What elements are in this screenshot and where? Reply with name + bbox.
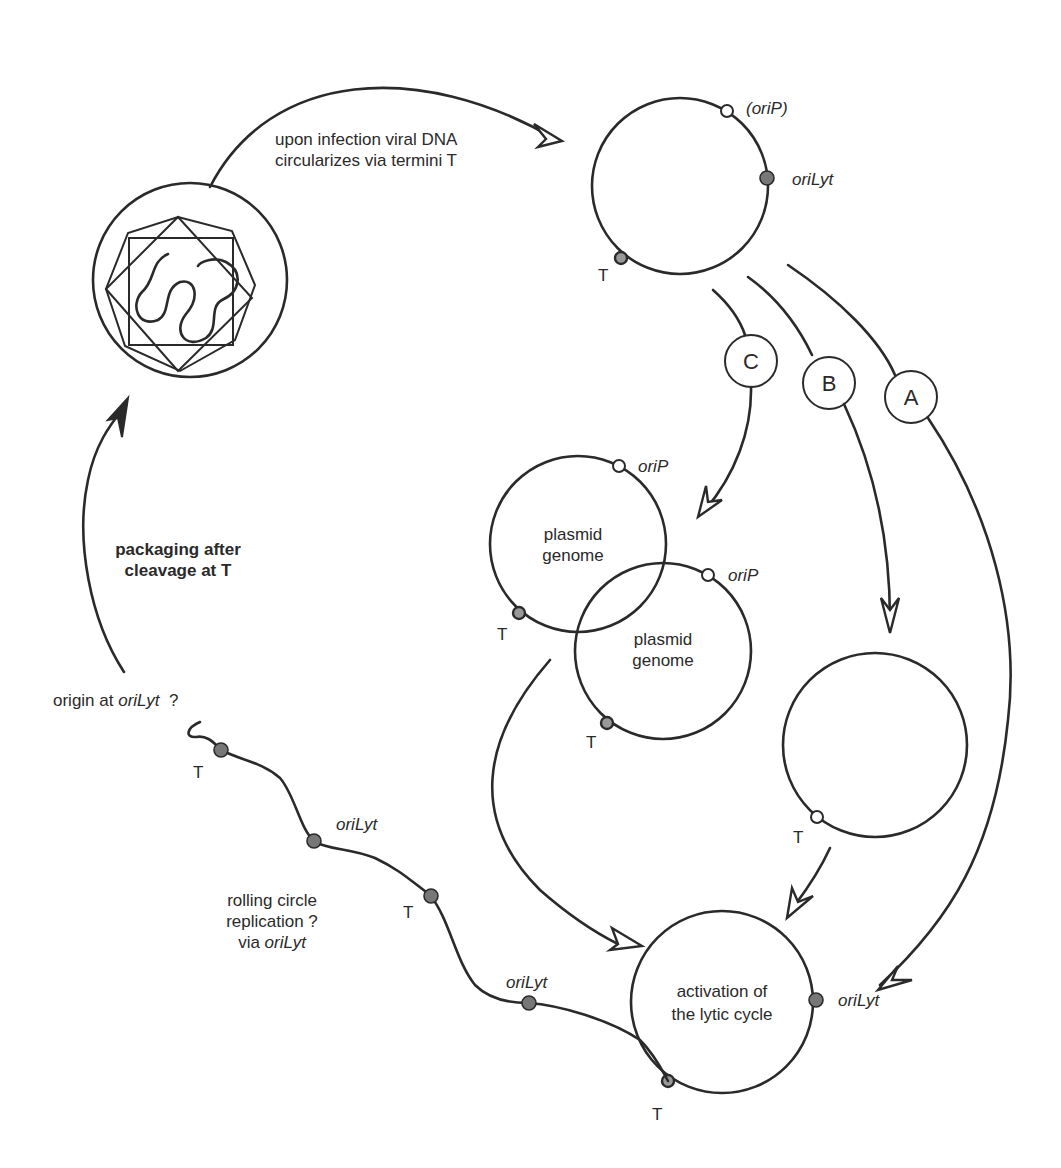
episome-orilyt-label: oriLyt — [792, 170, 835, 189]
concatemer-t2-label: T — [403, 903, 413, 922]
orip-marker — [721, 105, 733, 117]
plasmid-2-label-line2: genome — [632, 651, 693, 670]
concatemer-t1-marker — [214, 743, 228, 757]
plasmid-1-label-line1: plasmid — [544, 525, 603, 544]
route-a-letter: A — [904, 385, 919, 410]
plasmid-2-orip-label: oriP — [728, 566, 759, 585]
route-b-circle — [783, 653, 967, 837]
viral-life-cycle-diagram: upon infection viral DNA circularizes vi… — [0, 0, 1061, 1168]
origin-label: origin at oriLyt ? — [53, 691, 178, 710]
packaging-arrow — [83, 398, 128, 672]
circular-episome — [592, 98, 774, 274]
rolling-circle-label-line3: via oriLyt — [238, 933, 307, 952]
packaging-label-line2: cleavage at T — [125, 561, 232, 580]
lytic-orilyt-label: oriLyt — [838, 991, 881, 1010]
packaging-label-line1: packaging after — [115, 540, 241, 559]
plasmid-1-circle — [490, 456, 666, 632]
lytic-label-line1: activation of — [677, 982, 768, 1001]
episome-orip-label: (oriP) — [746, 99, 788, 118]
lytic-label-line2: the lytic cycle — [671, 1005, 772, 1024]
plasmid-1-orip-marker — [613, 460, 625, 472]
episome-t-label: T — [598, 266, 608, 285]
lytic-orilyt-marker — [809, 993, 823, 1007]
episome-circle — [592, 98, 768, 274]
concatemer-orilyt1-marker — [307, 834, 321, 848]
plasmid-2-terminus-marker — [601, 717, 613, 729]
concatemer-orilyt2-marker — [522, 996, 536, 1010]
infection-label-line1: upon infection viral DNA — [275, 130, 458, 149]
concatemer-t1-label: T — [193, 763, 203, 782]
virion-particle — [93, 183, 287, 377]
plasmid-to-lytic-arrow — [492, 660, 642, 950]
plasmid-2-label-line1: plasmid — [634, 630, 693, 649]
solid-arrowhead-icon — [108, 398, 128, 437]
rolling-circle-label-line1: rolling circle — [227, 891, 317, 910]
route-b-path — [748, 277, 899, 633]
route-b-episome — [783, 653, 967, 837]
concatemer-orilyt1-label: oriLyt — [336, 815, 379, 834]
plasmid-1-label-line2: genome — [542, 546, 603, 565]
lytic-t-label: T — [652, 1105, 662, 1124]
orilyt-marker — [760, 171, 774, 185]
open-arrowhead-icon — [787, 888, 813, 918]
route-c-path — [698, 290, 777, 517]
plasmid-genome-1 — [490, 456, 666, 632]
concatemer-t2-marker — [424, 889, 438, 903]
route-b-t-label: T — [793, 828, 803, 847]
virion-envelope — [93, 183, 287, 377]
route-c-letter: C — [743, 349, 759, 374]
open-arrowhead-icon — [534, 124, 562, 147]
route-b-to-lytic-arrow — [787, 848, 830, 918]
plasmid-2-t-label: T — [586, 733, 596, 752]
open-arrowhead-icon — [878, 966, 912, 990]
route-b-letter: B — [822, 371, 837, 396]
packaged-dna — [136, 254, 237, 342]
plasmid-1-terminus-marker — [513, 607, 525, 619]
infection-label-line2: circularizes via termini T — [275, 151, 457, 170]
concatemer-orilyt2-label: oriLyt — [506, 973, 549, 992]
plasmid-1-orip-label: oriP — [638, 457, 669, 476]
route-b-terminus-marker — [811, 811, 823, 823]
plasmid-2-orip-marker — [702, 569, 714, 581]
open-arrowhead-icon — [610, 928, 642, 950]
terminus-marker — [615, 252, 627, 264]
plasmid-1-t-label: T — [497, 625, 507, 644]
rolling-circle-label-line2: replication ? — [226, 912, 318, 931]
